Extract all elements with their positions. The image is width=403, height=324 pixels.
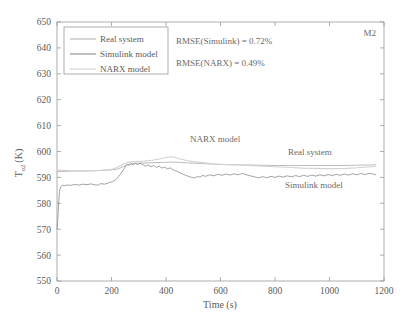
x-tick-label: 800: [268, 286, 283, 296]
chart-canvas: 550560570580590600610620630640650 020040…: [0, 0, 403, 324]
y-tick-label: 620: [37, 95, 52, 105]
y-tick-label: 550: [37, 276, 52, 286]
svg-text:To2(K): To2(K): [13, 149, 26, 178]
y-tick-label: 650: [37, 17, 52, 27]
x-axis-title: Time (s): [203, 299, 237, 311]
series-group: [57, 157, 376, 230]
y-tick-label: 590: [37, 173, 52, 183]
figure-container: 550560570580590600610620630640650 020040…: [0, 0, 403, 324]
y-tick-label: 640: [37, 43, 52, 53]
narx-model-curve-label: NARX model: [190, 134, 241, 144]
legend-label-1: Simulink model: [100, 49, 158, 59]
y-axis-title: To2(K): [13, 149, 26, 178]
x-tick-label: 1200: [375, 286, 394, 296]
y-axis-title-unit: (K): [13, 149, 25, 163]
y-tick-label: 560: [37, 251, 52, 261]
series-simulink-model: [57, 163, 376, 229]
y-tick-label: 600: [37, 147, 52, 157]
y-axis-title-sub: o2: [19, 165, 26, 172]
legend-label-0: Real system: [100, 34, 144, 44]
x-tick-label: 400: [159, 286, 174, 296]
rmse-simulink-annotation: RMSE(Simulink) = 0.72%: [176, 36, 273, 46]
x-tick-label: 200: [104, 286, 119, 296]
y-tick-label: 630: [37, 69, 52, 79]
x-tick-label: 600: [213, 286, 228, 296]
y-tick-label: 570: [37, 225, 52, 235]
rmse-narx-annotation: RMSE(NARX) = 0.49%: [176, 58, 265, 68]
x-tick-label: 1000: [320, 286, 339, 296]
y-tick-label: 610: [37, 121, 52, 131]
real-system-curve-label: Real system: [288, 147, 332, 157]
x-axis-tick-labels: 020040060080010001200: [55, 286, 394, 296]
series-narx-model: [57, 157, 376, 171]
legend: Real systemSimulink modelNARX model: [64, 27, 168, 74]
simulink-model-curve-label: Simulink model: [285, 180, 343, 190]
x-tick-label: 0: [55, 286, 60, 296]
legend-label-2: NARX model: [100, 64, 151, 74]
panel-label: M2: [363, 28, 376, 38]
y-tick-label: 580: [37, 199, 52, 209]
y-axis-tick-labels: 550560570580590600610620630640650: [37, 17, 52, 286]
